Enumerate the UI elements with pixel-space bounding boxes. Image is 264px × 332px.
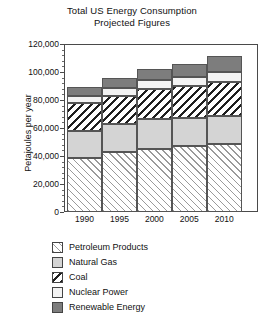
bar-segment — [172, 64, 207, 77]
legend-label: Petroleum Products — [69, 242, 148, 253]
legend-swatch — [52, 302, 63, 313]
bar-segment — [137, 119, 172, 149]
bar-segment — [207, 82, 242, 116]
legend-swatch — [52, 287, 63, 298]
chart-legend: Petroleum ProductsNatural GasCoalNuclear… — [52, 240, 232, 315]
legend-item: Petroleum Products — [52, 240, 232, 255]
bar-segment — [207, 116, 242, 144]
bar-segment — [137, 80, 172, 88]
bar-segment — [102, 88, 137, 96]
bar-segment — [207, 144, 242, 212]
bar-segment — [172, 77, 207, 86]
bar-segment — [207, 56, 242, 72]
bar-column — [67, 44, 102, 212]
bar-column — [102, 44, 137, 212]
legend-swatch — [52, 257, 63, 268]
x-axis-tick-label: 2010 — [204, 215, 244, 224]
legend-swatch — [52, 272, 63, 283]
y-axis-tick-mark — [60, 212, 64, 213]
bar-segment — [67, 87, 102, 96]
bar-segment — [67, 103, 102, 131]
bar-column — [207, 44, 242, 212]
bar-segment — [102, 78, 137, 89]
bar-segment — [137, 149, 172, 212]
legend-swatch — [52, 242, 63, 253]
legend-label: Coal — [69, 272, 88, 283]
bar-segment — [102, 152, 137, 212]
legend-item: Renewable Energy — [52, 300, 232, 315]
chart-figure: Total US Energy Consumption Projected Fi… — [0, 0, 264, 332]
bar-segment — [67, 131, 102, 158]
bar-segment — [172, 146, 207, 212]
bar-segment — [137, 89, 172, 119]
bar-column — [137, 44, 172, 212]
legend-item: Nuclear Power — [52, 285, 232, 300]
legend-label: Natural Gas — [69, 257, 117, 268]
legend-label: Renewable Energy — [69, 302, 145, 313]
legend-item: Coal — [52, 270, 232, 285]
bar-segment — [67, 158, 102, 212]
legend-label: Nuclear Power — [69, 287, 128, 298]
bar-segment — [172, 118, 207, 146]
bar-segment — [207, 72, 242, 82]
y-axis-tick-label: 120,000 — [0, 40, 64, 49]
bar-segment — [137, 69, 172, 80]
bar-column — [172, 44, 207, 212]
legend-item: Natural Gas — [52, 255, 232, 270]
bar-segment — [67, 96, 102, 103]
bar-segment — [102, 124, 137, 152]
bar-segment — [172, 86, 207, 118]
bar-segment — [102, 96, 137, 124]
plot-area — [64, 44, 258, 212]
y-axis-label: Petajoules per year — [23, 53, 33, 213]
